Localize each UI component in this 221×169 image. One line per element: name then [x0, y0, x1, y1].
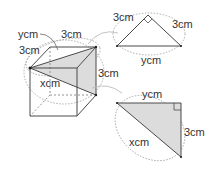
- bottom-triangle-right-label: 3cm: [184, 127, 205, 138]
- cube-top-edge-label: 3cm: [61, 29, 82, 40]
- bottom-triangle-vertex-left: [116, 102, 118, 104]
- cube-y-label: ycm: [18, 29, 38, 40]
- vertex-a: [29, 67, 32, 70]
- vertex-c: [95, 94, 97, 96]
- bottom-triangle-vertex-bottom: [180, 156, 182, 158]
- bottom-triangle-shape: [117, 103, 181, 157]
- cube-left-edge-label: 3cm: [19, 45, 40, 56]
- cube-x-label: xcm: [40, 78, 60, 89]
- cube-right-edge-label: 3cm: [98, 68, 119, 79]
- top-triangle-base-label: ycm: [141, 55, 161, 66]
- top-triangle-left-label: 3cm: [113, 12, 134, 23]
- connector-top: [88, 32, 118, 44]
- bottom-triangle-top-label: ycm: [142, 89, 162, 100]
- vertex-b: [95, 46, 97, 48]
- hidden-edge-bottom-left: [30, 95, 50, 116]
- bottom-triangle-hypotenuse-label: xcm: [129, 137, 149, 148]
- top-triangle-vertex-right: [180, 45, 182, 47]
- top-triangle-right-label: 3cm: [172, 19, 193, 30]
- diagram-canvas: ycm 3cm 3cm 3cm xcm 3cm 3cm ycm ycm 3cm …: [0, 0, 221, 169]
- top-triangle-vertex-left: [116, 45, 118, 47]
